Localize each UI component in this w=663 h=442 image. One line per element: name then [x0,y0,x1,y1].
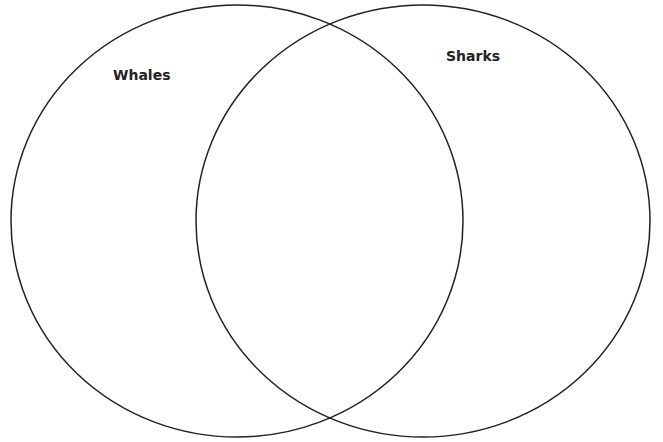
sharks-label: Sharks [446,48,500,64]
whales-label: Whales [113,67,170,83]
sharks-circle [196,5,650,437]
venn-diagram [0,0,663,442]
whales-circle [11,5,463,437]
